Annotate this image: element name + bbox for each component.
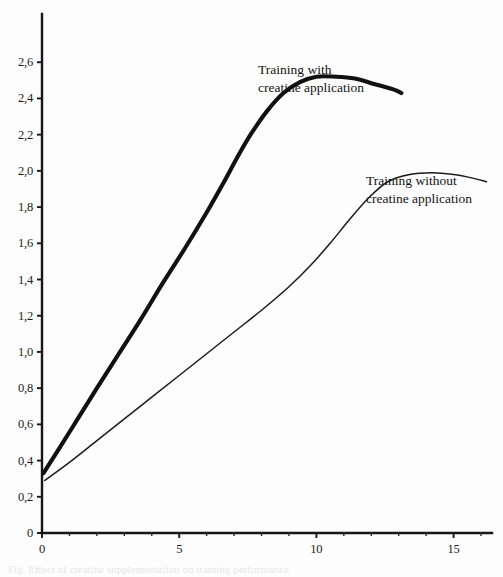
y-axis-tick-label: 1,2 [0,308,33,323]
series-label-without-creatine-line2: creatine application [366,190,472,208]
y-axis-tick-label: 0,6 [0,417,33,432]
y-axis-tick-label: 2,0 [0,163,33,178]
y-axis-tick-label: 1,4 [0,272,33,287]
series-line-with-creatine [43,76,401,473]
series-label-without-creatine: Training without creatine application [366,172,472,208]
series-line-without-creatine [45,173,487,481]
chart-series-group [43,76,486,480]
x-axis-tick-label: 5 [176,542,182,557]
series-label-with-creatine: Training with creatine application [258,61,364,97]
x-axis-tick-label: 15 [448,542,460,557]
figure-caption-clipped: Fig. Effect of creatine supplementation … [0,566,503,577]
y-axis-tick-label: 0,8 [0,381,33,396]
y-axis-tick-label: 2,6 [0,55,33,70]
y-axis-tick-label: 2,4 [0,91,33,106]
x-axis-tick-label: 10 [310,542,322,557]
series-label-without-creatine-line1: Training without [366,172,472,190]
y-axis-tick-label: 0,2 [0,489,33,504]
y-axis-tick-label: 0 [0,526,33,541]
chart-figure: 00,20,40,60,81,01,21,41,61,82,02,22,42,6… [0,0,503,577]
y-axis-tick-label: 1,8 [0,200,33,215]
y-axis-tick-label: 1,0 [0,344,33,359]
x-axis-tick-label: 0 [39,542,45,557]
y-axis-tick-label: 0,4 [0,453,33,468]
figure-caption-text: Fig. Effect of creatine supplementation … [0,566,503,575]
series-label-with-creatine-line1: Training with [258,61,364,79]
y-axis-tick-label: 2,2 [0,127,33,142]
series-label-with-creatine-line2: creatine application [258,79,364,97]
y-axis-tick-label: 1,6 [0,236,33,251]
chart-plot-area [0,0,503,577]
